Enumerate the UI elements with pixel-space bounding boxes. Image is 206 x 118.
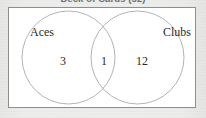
diagram-caption: Deck of Cards (52)	[0, 0, 206, 4]
caption-strip: Deck of Cards (52)	[0, 0, 206, 6]
venn-diagram: Aces Clubs 3 1 12	[0, 0, 206, 118]
region-count-clubs-only: 12	[136, 54, 148, 68]
region-count-intersection: 1	[101, 54, 107, 68]
set-label-aces: Aces	[30, 25, 54, 39]
set-label-clubs: Clubs	[163, 25, 191, 39]
region-count-aces-only: 3	[60, 54, 66, 68]
